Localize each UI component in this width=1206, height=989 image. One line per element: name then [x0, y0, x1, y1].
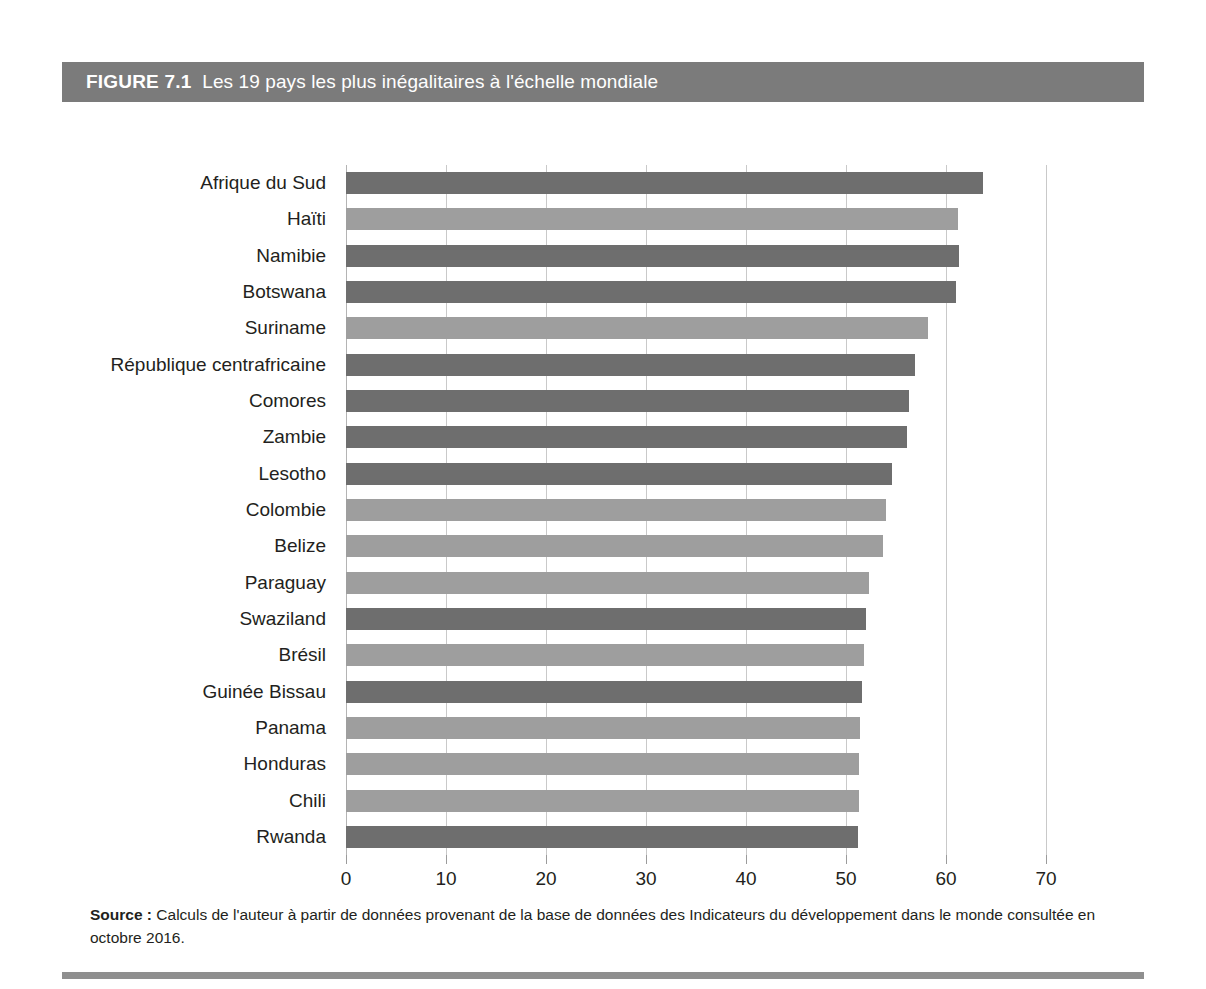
x-axis-tick-label: 20	[535, 868, 556, 890]
x-axis-tick	[846, 855, 847, 864]
source-note: Source : Calculs de l'auteur à partir de…	[90, 903, 1140, 949]
y-axis-label: Chili	[289, 783, 326, 819]
y-axis-label: Panama	[255, 710, 326, 746]
bar	[346, 717, 860, 739]
bar	[346, 245, 959, 267]
bar	[346, 608, 866, 630]
bar	[346, 390, 909, 412]
source-label: Source :	[90, 906, 152, 923]
y-axis-label: Colombie	[246, 492, 326, 528]
y-axis-label: Paraguay	[245, 565, 326, 601]
bar	[346, 317, 928, 339]
x-axis-tick-label: 60	[935, 868, 956, 890]
bar	[346, 426, 907, 448]
x-axis-tick-label: 70	[1035, 868, 1056, 890]
x-axis-tick	[646, 855, 647, 864]
x-axis-tick-label: 30	[635, 868, 656, 890]
y-axis-label: Zambie	[263, 419, 326, 455]
source-text: Calculs de l'auteur à partir de données …	[90, 906, 1095, 946]
y-axis-label: Swaziland	[239, 601, 326, 637]
x-axis-tick-label: 50	[835, 868, 856, 890]
bar	[346, 208, 958, 230]
x-axis-tick	[546, 855, 547, 864]
figure-number: FIGURE 7.1	[86, 71, 191, 92]
x-axis-tick-label: 40	[735, 868, 756, 890]
y-axis-label: Comores	[249, 383, 326, 419]
x-axis-tick-label: 0	[341, 868, 352, 890]
x-axis: 010203040506070	[346, 855, 1046, 901]
x-axis-tick	[346, 855, 347, 864]
figure-header-text: FIGURE 7.1 Les 19 pays les plus inégalit…	[86, 71, 658, 93]
bar	[346, 753, 859, 775]
bar-series	[346, 165, 1046, 855]
bar	[346, 572, 869, 594]
x-axis-tick-label: 10	[435, 868, 456, 890]
figure-container: FIGURE 7.1 Les 19 pays les plus inégalit…	[0, 0, 1206, 989]
y-axis-label: Belize	[274, 528, 326, 564]
x-axis-tick	[446, 855, 447, 864]
bar	[346, 499, 886, 521]
bottom-rule	[62, 972, 1144, 979]
y-axis-label: Namibie	[256, 238, 326, 274]
bar	[346, 463, 892, 485]
y-axis-label: République centrafricaine	[111, 347, 326, 383]
y-axis-label: Honduras	[244, 746, 326, 782]
gridline-70	[1046, 165, 1047, 855]
plot-area	[346, 165, 1046, 855]
y-axis-label: Brésil	[278, 637, 326, 673]
bar	[346, 354, 915, 376]
bar	[346, 172, 983, 194]
y-axis-label: Haïti	[287, 201, 326, 237]
bar	[346, 681, 862, 703]
bar	[346, 281, 956, 303]
bar	[346, 826, 858, 848]
y-axis-category-labels: Afrique du SudHaïtiNamibieBotswanaSurina…	[62, 165, 336, 855]
x-axis-tick	[946, 855, 947, 864]
y-axis-label: Botswana	[243, 274, 326, 310]
bar	[346, 644, 864, 666]
chart: Afrique du SudHaïtiNamibieBotswanaSurina…	[62, 120, 1144, 880]
y-axis-label: Guinée Bissau	[202, 674, 326, 710]
y-axis-label: Afrique du Sud	[200, 165, 326, 201]
figure-title: Les 19 pays les plus inégalitaires à l'é…	[202, 71, 658, 92]
y-axis-label: Lesotho	[258, 456, 326, 492]
x-axis-tick	[746, 855, 747, 864]
bar	[346, 535, 883, 557]
y-axis-label: Rwanda	[256, 819, 326, 855]
y-axis-label: Suriname	[245, 310, 326, 346]
bar	[346, 790, 859, 812]
x-axis-tick	[1046, 855, 1047, 864]
figure-header-band: FIGURE 7.1 Les 19 pays les plus inégalit…	[62, 62, 1144, 102]
